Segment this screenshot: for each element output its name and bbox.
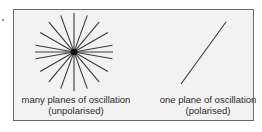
- caption-line-2: (unpolarised): [16, 105, 136, 116]
- polarised-line-icon: [181, 22, 226, 84]
- caption-line-1: one plane of oscillation: [158, 94, 258, 105]
- caption-line-2: (polarised): [158, 105, 258, 116]
- star-center-dot: [71, 49, 77, 55]
- polarised-caption: one plane of oscillation (polarised): [158, 94, 258, 116]
- caption-line-1: many planes of oscillation: [16, 94, 136, 105]
- unpolarised-caption: many planes of oscillation (unpolarised): [16, 94, 136, 116]
